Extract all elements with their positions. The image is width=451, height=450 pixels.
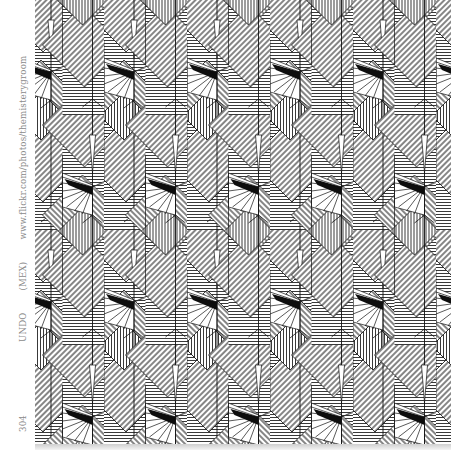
vertical-caption: 304 UNDO (MEX) www.flickr.com/photos/the… <box>17 56 29 450</box>
caption-url: www.flickr.com/photos/themisterygroom <box>18 56 28 240</box>
bottom-edge-shadow <box>35 444 451 450</box>
caption-number: 304 <box>18 415 28 432</box>
caption-origin: (MEX) <box>18 262 28 291</box>
caption-strip: 304 UNDO (MEX) www.flickr.com/photos/the… <box>0 0 35 450</box>
pattern-canvas <box>35 0 451 446</box>
caption-title: UNDO <box>18 312 28 342</box>
geometric-pattern <box>35 0 451 446</box>
hatched-pattern-fill <box>35 0 451 446</box>
